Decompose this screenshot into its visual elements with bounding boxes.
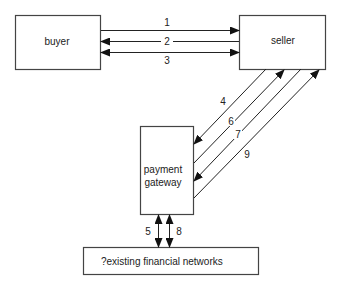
- edge-1: 1: [101, 17, 239, 31]
- edge-label-2: 2: [164, 36, 170, 47]
- edge-label-3: 3: [164, 55, 170, 66]
- edge-8: 8: [170, 215, 183, 247]
- edge-3: 3: [101, 53, 239, 67]
- arrow-diagonal-icon: [194, 70, 284, 163]
- edge-label-5: 5: [145, 226, 151, 237]
- buyer-node: buyer: [16, 16, 101, 70]
- edge-label-9: 9: [244, 149, 250, 160]
- arrow-diagonal-icon: [194, 70, 319, 198]
- networks-label: ?existing financial networks: [101, 256, 223, 267]
- edge-7: 7: [194, 69, 301, 181]
- arrow-diagonal-icon: [194, 69, 301, 181]
- gateway-label-line1: payment: [144, 164, 183, 175]
- buyer-label: buyer: [44, 36, 70, 47]
- edge-label-4: 4: [220, 96, 226, 107]
- payment-gateway-node: payment gateway: [141, 127, 194, 215]
- seller-label: seller: [271, 35, 296, 46]
- edge-label-6: 6: [228, 116, 234, 127]
- financial-networks-node: ?existing financial networks: [84, 248, 259, 275]
- payment-flow-diagram: buyer seller payment gateway ?existing f…: [0, 0, 348, 286]
- edge-label-1: 1: [164, 17, 170, 28]
- gateway-label-line2: gateway: [144, 177, 181, 188]
- edge-2: 2: [101, 36, 239, 47]
- edge-label-7: 7: [235, 129, 241, 140]
- seller-node: seller: [240, 16, 326, 70]
- edge-6: 6: [194, 70, 284, 163]
- edge-4: 4: [194, 69, 266, 144]
- edge-label-8: 8: [176, 226, 182, 237]
- arrow-diagonal-icon: [194, 69, 266, 144]
- edge-9: 9: [194, 70, 319, 198]
- edge-5: 5: [145, 215, 158, 247]
